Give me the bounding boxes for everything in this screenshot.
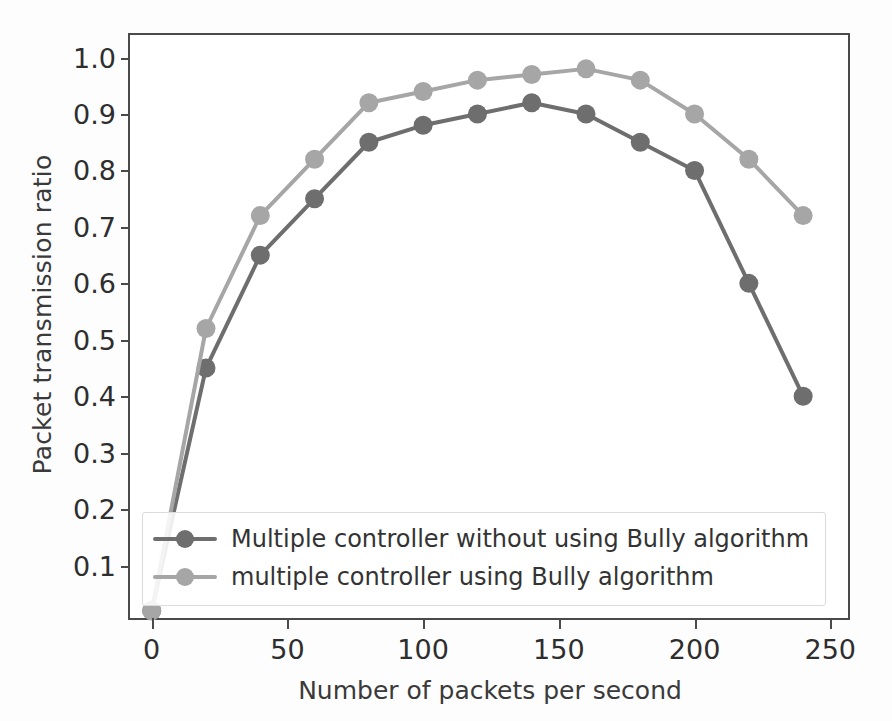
y-tick-label-8: 0.9 bbox=[73, 99, 116, 130]
legend-item[interactable]: multiple controller using Bully algorith… bbox=[153, 558, 809, 596]
chart-figure: Packet transmission ratio Multiple contr… bbox=[0, 0, 892, 721]
y-tick-9 bbox=[121, 58, 130, 60]
data-point bbox=[468, 105, 487, 124]
y-tick-label-3: 0.4 bbox=[73, 381, 116, 412]
data-point bbox=[739, 274, 758, 293]
data-point bbox=[522, 65, 541, 84]
x-tick-3 bbox=[559, 618, 561, 629]
y-tick-4 bbox=[121, 340, 130, 342]
data-point bbox=[685, 105, 704, 124]
data-point bbox=[794, 387, 813, 406]
data-point bbox=[359, 93, 378, 112]
legend-dot-1 bbox=[176, 568, 194, 586]
legend-marker-icon bbox=[153, 568, 217, 586]
y-tick-label-9: 1.0 bbox=[73, 42, 116, 73]
y-tick-0 bbox=[121, 566, 130, 568]
y-tick-label-7: 0.8 bbox=[73, 155, 116, 186]
data-point bbox=[522, 93, 541, 112]
data-point bbox=[305, 150, 324, 169]
chart-legend: Multiple controller without using Bully … bbox=[142, 512, 826, 606]
data-point bbox=[197, 319, 216, 338]
y-tick-label-2: 0.3 bbox=[73, 437, 116, 468]
y-tick-5 bbox=[121, 283, 130, 285]
y-tick-label-6: 0.7 bbox=[73, 211, 116, 242]
x-tick-label-2: 100 bbox=[397, 634, 449, 665]
y-tick-label-4: 0.5 bbox=[73, 324, 116, 355]
data-point bbox=[577, 59, 596, 78]
x-axis-label: Number of packets per second bbox=[128, 676, 852, 705]
x-tick-label-1: 50 bbox=[270, 634, 304, 665]
y-tick-label-1: 0.2 bbox=[73, 494, 116, 525]
legend-label-0: Multiple controller without using Bully … bbox=[231, 525, 809, 553]
x-tick-2 bbox=[423, 618, 425, 629]
data-point bbox=[305, 189, 324, 208]
legend-item[interactable]: Multiple controller without using Bully … bbox=[153, 520, 809, 558]
data-point bbox=[685, 161, 704, 180]
y-tick-8 bbox=[121, 114, 130, 116]
y-tick-7 bbox=[121, 170, 130, 172]
y-tick-1 bbox=[121, 509, 130, 511]
data-point bbox=[251, 206, 270, 225]
legend-marker-icon bbox=[153, 530, 217, 548]
data-point bbox=[468, 71, 487, 90]
data-point bbox=[359, 133, 378, 152]
x-tick-label-5: 250 bbox=[805, 634, 857, 665]
data-point bbox=[414, 82, 433, 101]
legend-dot-0 bbox=[176, 530, 194, 548]
y-tick-label-0: 0.1 bbox=[73, 550, 116, 581]
x-tick-label-0: 0 bbox=[143, 634, 160, 665]
data-point bbox=[631, 133, 650, 152]
x-tick-label-4: 200 bbox=[669, 634, 721, 665]
x-tick-4 bbox=[695, 618, 697, 629]
y-tick-label-5: 0.6 bbox=[73, 268, 116, 299]
data-point bbox=[631, 71, 650, 90]
legend-label-1: multiple controller using Bully algorith… bbox=[231, 563, 714, 591]
x-tick-1 bbox=[287, 618, 289, 629]
data-point bbox=[414, 116, 433, 135]
y-tick-2 bbox=[121, 453, 130, 455]
y-tick-6 bbox=[121, 227, 130, 229]
plot-area: Multiple controller without using Bully … bbox=[128, 33, 850, 620]
data-point bbox=[251, 246, 270, 265]
x-tick-label-3: 150 bbox=[533, 634, 585, 665]
x-tick-0 bbox=[152, 618, 154, 629]
data-point bbox=[739, 150, 758, 169]
y-tick-3 bbox=[121, 396, 130, 398]
data-point bbox=[577, 105, 596, 124]
x-tick-5 bbox=[830, 618, 832, 629]
y-axis-label: Packet transmission ratio bbox=[28, 105, 57, 525]
data-point bbox=[794, 206, 813, 225]
